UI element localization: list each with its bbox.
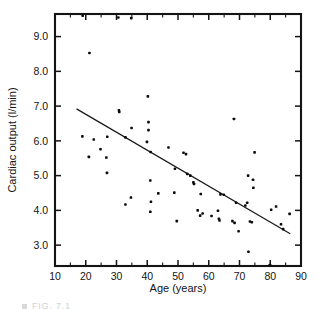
data-point (106, 135, 109, 138)
data-point (218, 219, 221, 222)
data-point (147, 129, 150, 132)
data-point (182, 151, 185, 154)
data-point (253, 151, 256, 154)
data-point (147, 95, 150, 98)
data-point (199, 193, 202, 196)
figure-root: 3.04.05.06.07.08.09.0 102030405060708090… (0, 0, 318, 309)
data-point (124, 203, 127, 206)
data-point (174, 167, 177, 170)
y-tick-label: 7.0 (33, 100, 48, 112)
data-point (88, 52, 91, 55)
y-tick-label: 4.0 (33, 204, 48, 216)
data-point (199, 214, 202, 217)
x-tick-label: 90 (295, 270, 307, 282)
x-tick-label: 80 (264, 270, 276, 282)
data-point (186, 173, 189, 176)
data-point (219, 193, 222, 196)
data-point (244, 204, 247, 207)
data-point (81, 14, 84, 17)
y-tick-label: 6.0 (33, 135, 48, 147)
caption-square-marker (22, 304, 27, 309)
scatter-chart: 3.04.05.06.07.08.09.0 102030405060708090… (0, 0, 318, 309)
data-point (118, 111, 121, 114)
data-point (252, 179, 255, 182)
data-point (237, 230, 240, 233)
data-point (189, 174, 192, 177)
x-tick-label: 50 (172, 270, 184, 282)
data-point (92, 138, 95, 141)
x-tick-label: 20 (80, 270, 92, 282)
data-point (117, 16, 120, 19)
x-tick-label: 30 (111, 270, 123, 282)
data-point (280, 223, 283, 226)
data-point (88, 156, 91, 159)
data-point (247, 250, 250, 253)
x-axis-tick-labels: 102030405060708090 (49, 270, 307, 282)
data-point (235, 201, 238, 204)
data-point (247, 174, 250, 177)
data-point (251, 221, 254, 224)
data-point (81, 135, 84, 138)
x-tick-label: 40 (141, 270, 153, 282)
x-tick-label: 10 (49, 270, 61, 282)
data-point (149, 151, 152, 154)
data-point (106, 172, 109, 175)
data-point (217, 209, 220, 212)
data-point (157, 192, 160, 195)
y-tick-label: 9.0 (33, 30, 48, 42)
data-point (288, 213, 291, 216)
data-point (196, 209, 199, 212)
data-point (282, 228, 285, 231)
data-point (130, 17, 133, 20)
data-point (150, 200, 153, 203)
x-axis-title: Age (years) (150, 282, 207, 294)
x-tick-label: 60 (203, 270, 215, 282)
y-tick-label: 5.0 (33, 169, 48, 181)
y-axis-tick-labels: 3.04.05.06.07.08.09.0 (33, 30, 48, 251)
data-point (105, 156, 108, 159)
x-tick-label: 70 (234, 270, 246, 282)
data-point (124, 136, 127, 139)
data-point (193, 183, 196, 186)
data-point (210, 215, 213, 218)
data-point (270, 208, 273, 211)
data-point (233, 222, 236, 225)
y-tick-label: 8.0 (33, 65, 48, 77)
data-point (233, 118, 236, 121)
caption-label: FIG. 7.1 (32, 301, 71, 309)
data-point (185, 153, 188, 156)
data-point (252, 186, 255, 189)
plot-background (55, 14, 301, 266)
data-point (149, 179, 152, 182)
data-point (201, 212, 204, 215)
data-point (167, 146, 170, 149)
data-point (147, 121, 150, 124)
data-point (223, 193, 226, 196)
data-point (173, 191, 176, 194)
data-point (275, 205, 278, 208)
y-axis-title: Cardiac output (l/min) (6, 87, 18, 192)
data-point (269, 264, 272, 267)
y-tick-label: 3.0 (33, 239, 48, 251)
data-point (146, 141, 149, 144)
data-point (99, 148, 102, 151)
data-point (130, 196, 133, 199)
data-point (175, 220, 178, 223)
data-point (246, 201, 249, 204)
data-point (130, 127, 133, 130)
figure-caption: FIG. 7.1 (22, 301, 71, 309)
data-point (149, 210, 152, 213)
